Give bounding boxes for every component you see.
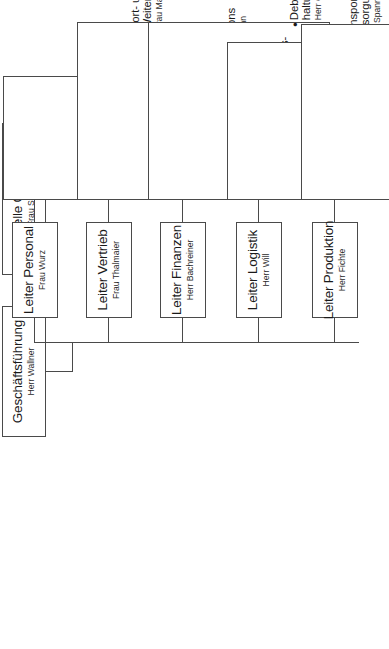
org-node-leiter-finanzen[interactable]: Leiter Finanzen Herr Bachreiner [160,222,206,318]
node-person: Herr Bachreiner [186,240,195,301]
org-node-leiter-personal[interactable]: Leiter Personal Frau Wurz [12,222,58,318]
detail-unit-label: Debitorenbuch- haltung [288,0,314,20]
connector-spine-to-produktion [334,318,335,343]
node-title: Leiter Vertrieb [96,229,111,310]
node-title: Leiter Personal [22,226,37,314]
connector-logistik-to-details [258,200,259,222]
connector-spine-to-personal [34,318,35,343]
connector-department-spine [34,342,359,343]
bullet-icon: • [289,22,302,27]
detail-box-produktion: •Arbeitsvor- bereitungHr. Fritsch•Sparte… [301,24,389,200]
connector-personal-to-details [34,200,35,222]
node-person: Frau Wurz [38,250,47,290]
detail-unit-person: Herr Gerlacher [314,0,324,20]
node-title: Leiter Finanzen [170,225,185,315]
connector-spine-to-logistik [258,318,259,343]
connector-finanzen-to-details [182,200,183,222]
node-person: Herr Fichte [338,249,347,292]
connector-spine-to-finanzen [182,318,183,343]
detail-item-text: Debitorenbuch- haltungHerr Gerlacher [288,0,324,20]
rotated-chart-wrapper: Geschäftsführung Herr Wallner Stabsstell… [0,0,389,649]
org-chart: Geschäftsführung Herr Wallner Stabsstell… [0,0,389,649]
node-title: Leiter Produktion [322,221,337,320]
node-title: Leiter Logistik [246,230,261,310]
connector-spine-to-vertrieb [108,318,109,343]
detail-item: •Debitorenbuch- haltungHerr Gerlacher [288,0,324,27]
org-node-geschaeftsfuehrung[interactable]: Geschäftsführung Herr Wallner [2,306,46,437]
connector-produktion-to-details [334,200,335,222]
node-person: Herr Wallner [27,348,36,396]
connector-spine-horizontal [72,342,73,372]
org-node-leiter-produktion[interactable]: Leiter Produktion Herr Fichte [312,222,358,318]
connector-root-drop [46,371,72,372]
node-person: Frau Thalmaier [112,241,121,299]
node-person: Herr Will [262,254,271,287]
org-node-leiter-vertrieb[interactable]: Leiter Vertrieb Frau Thalmaier [86,222,132,318]
org-node-leiter-logistik[interactable]: Leiter Logistik Herr Will [236,222,282,318]
node-title: Geschäftsführung [11,320,26,423]
connector-vertrieb-to-details [108,200,109,222]
